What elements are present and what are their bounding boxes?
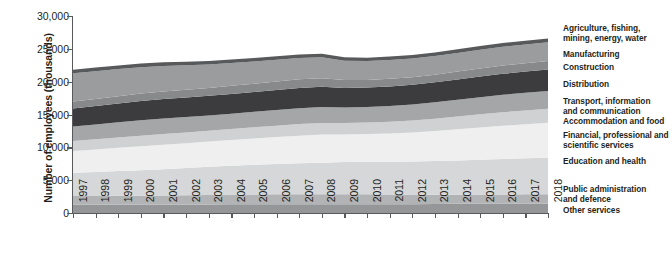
- x-tick-mark: [73, 214, 74, 218]
- y-tick-mark: [67, 180, 72, 181]
- y-axis-tick-labels: 05,00010,00015,00020,00025,00030,000: [14, 0, 69, 259]
- legend-item: Public administrationand defence: [563, 185, 672, 204]
- legend-item-label-line2: and communication: [563, 107, 672, 117]
- legend-item: Agriculture, fishing,mining, energy, wat…: [563, 24, 672, 43]
- legend-item: Other services: [563, 206, 672, 216]
- y-tick-label: 10,000: [17, 142, 69, 153]
- y-tick-label: 15,000: [17, 110, 69, 121]
- x-tick-mark: [367, 214, 368, 218]
- x-tick-label: 1998: [100, 179, 111, 219]
- x-tick-mark: [209, 214, 210, 218]
- legend-item-label-line2: scientific services: [563, 141, 672, 151]
- x-tick-mark: [299, 214, 300, 218]
- x-tick-mark: [231, 214, 232, 218]
- x-tick-mark: [525, 214, 526, 218]
- legend-item: Transport, informationand communication: [563, 97, 672, 116]
- x-tick-mark: [435, 214, 436, 218]
- x-tick-label: 2017: [530, 179, 541, 219]
- y-tick-mark: [67, 147, 72, 148]
- x-tick-label: 2009: [349, 179, 360, 219]
- y-tick-mark: [67, 213, 72, 214]
- legend-item-label-line2: mining, energy, water: [563, 34, 672, 44]
- x-tick-mark: [118, 214, 119, 218]
- chart-legend: Agriculture, fishing,mining, energy, wat…: [563, 0, 672, 259]
- legend-item-label: Distribution: [563, 80, 672, 90]
- x-tick-label: 2004: [236, 179, 247, 219]
- x-tick-label: 2001: [168, 179, 179, 219]
- x-tick-label: 2007: [304, 179, 315, 219]
- x-tick-label: 2013: [439, 179, 450, 219]
- y-axis-line: [72, 16, 73, 214]
- x-tick-label: 2005: [258, 179, 269, 219]
- legend-item-label: Education and health: [563, 157, 672, 167]
- legend-item-label: Other services: [563, 206, 672, 216]
- y-tick-label: 5,000: [17, 175, 69, 186]
- x-tick-mark: [344, 214, 345, 218]
- legend-item: Education and health: [563, 157, 672, 167]
- y-tick-mark: [67, 115, 72, 116]
- legend-item-label: Accommodation and food: [563, 117, 672, 127]
- x-tick-label: 2000: [145, 179, 156, 219]
- x-tick-label: 2018: [553, 179, 564, 219]
- x-tick-label: 2012: [417, 179, 428, 219]
- x-tick-label: 2006: [281, 179, 292, 219]
- x-tick-label: 2011: [394, 179, 405, 219]
- x-tick-label: 2015: [485, 179, 496, 219]
- x-tick-mark: [480, 214, 481, 218]
- legend-item: Distribution: [563, 80, 672, 90]
- x-tick-mark: [412, 214, 413, 218]
- x-tick-mark: [254, 214, 255, 218]
- x-tick-mark: [322, 214, 323, 218]
- x-tick-label: 2008: [326, 179, 337, 219]
- x-tick-mark: [390, 214, 391, 218]
- x-tick-label: 2010: [372, 179, 383, 219]
- legend-item-label-line2: and defence: [563, 195, 672, 205]
- x-tick-label: 2016: [507, 179, 518, 219]
- x-tick-mark: [163, 214, 164, 218]
- legend-item: Manufacturing: [563, 50, 672, 60]
- x-tick-label: 2002: [191, 179, 202, 219]
- y-tick-label: 30,000: [17, 11, 69, 22]
- y-tick-label: 20,000: [17, 77, 69, 88]
- x-tick-label: 1999: [123, 179, 134, 219]
- legend-item: Financial, professional andscientific se…: [563, 131, 672, 150]
- x-tick-mark: [458, 214, 459, 218]
- chart-root: Number of employees (thousands) 05,00010…: [0, 0, 672, 259]
- x-tick-mark: [503, 214, 504, 218]
- x-tick-mark: [186, 214, 187, 218]
- legend-item: Accommodation and food: [563, 117, 672, 127]
- y-tick-label: 25,000: [17, 44, 69, 55]
- x-tick-label: 1997: [78, 179, 89, 219]
- x-tick-mark: [141, 214, 142, 218]
- y-tick-mark: [67, 82, 72, 83]
- x-tick-mark: [96, 214, 97, 218]
- x-tick-label: 2014: [462, 179, 473, 219]
- x-tick-label: 2003: [213, 179, 224, 219]
- x-tick-mark: [277, 214, 278, 218]
- legend-item-label: Manufacturing: [563, 50, 672, 60]
- x-tick-mark: [548, 214, 549, 218]
- y-tick-mark: [67, 49, 72, 50]
- y-tick-label: 0: [17, 208, 69, 219]
- legend-item: Construction: [563, 63, 672, 73]
- y-tick-mark: [67, 16, 72, 17]
- legend-item-label: Construction: [563, 63, 672, 73]
